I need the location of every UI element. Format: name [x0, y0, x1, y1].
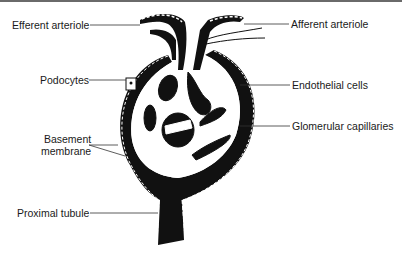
label-proximal-tubule: Proximal tubule [17, 207, 89, 219]
label-endothelial-cells: Endothelial cells [292, 79, 368, 91]
label-basement-line1: Basement [41, 133, 91, 145]
label-podocytes: Podocytes [40, 74, 89, 86]
label-basement-line2: membrane [41, 145, 91, 157]
label-glomerular-capillaries: Glomerular capillaries [292, 120, 394, 132]
label-basement-membrane: Basement membrane [41, 133, 91, 157]
label-efferent-arteriole: Efferent arteriole [12, 19, 89, 31]
label-afferent-arteriole: Afferent arteriole [291, 18, 368, 30]
